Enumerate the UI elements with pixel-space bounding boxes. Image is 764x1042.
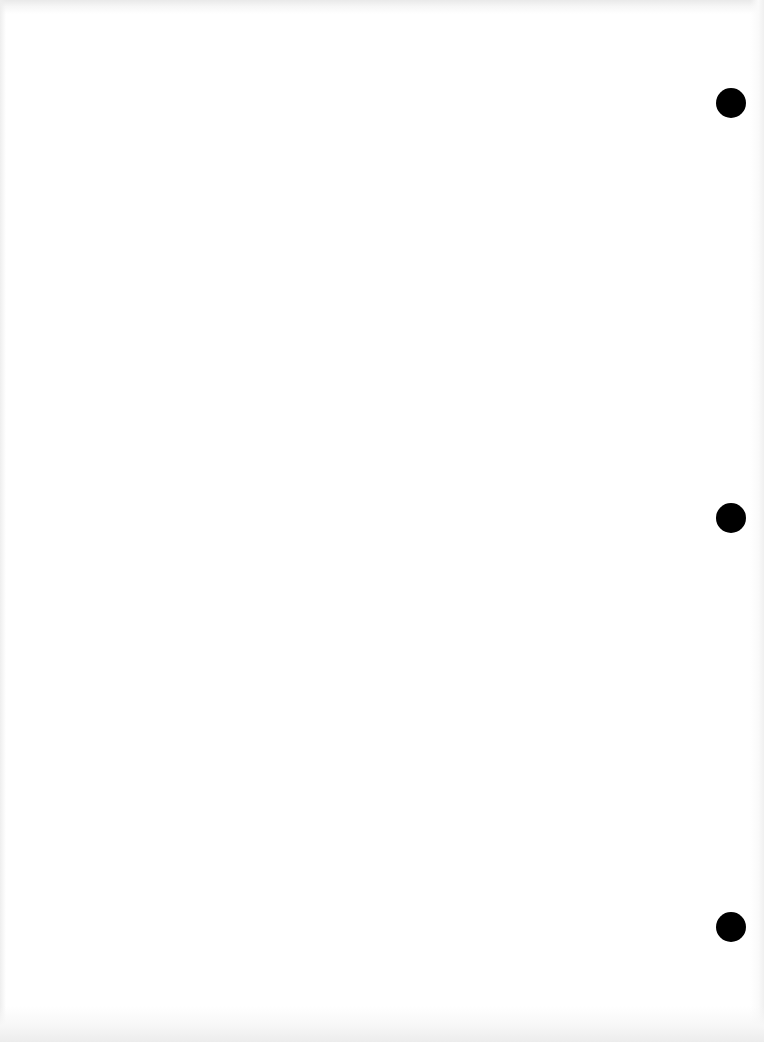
scan-edge-right [750,0,764,1042]
punch-hole-middle-icon [716,503,746,533]
scan-edge-left [0,0,6,1042]
punch-hole-top-icon [716,88,746,118]
scan-edge-top [0,0,764,14]
scan-edge-bottom [0,1006,764,1042]
punch-hole-bottom-icon [716,912,746,942]
scanned-page [0,0,764,1042]
